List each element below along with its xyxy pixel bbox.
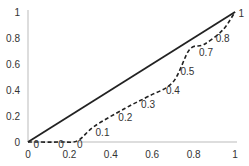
point-label: 0 bbox=[33, 139, 39, 150]
x-tick-label: 1 bbox=[232, 149, 238, 160]
y-tick-label: 0.2 bbox=[6, 111, 20, 122]
point-label: 0.3 bbox=[141, 99, 155, 110]
point-label: 0 bbox=[58, 139, 64, 150]
x-tick-label: 0.8 bbox=[187, 149, 201, 160]
x-tick-label: 0.6 bbox=[145, 149, 159, 160]
x-tick-label: 0.2 bbox=[62, 149, 76, 160]
point-label: 1 bbox=[238, 8, 244, 19]
x-tick-label: 0.4 bbox=[104, 149, 118, 160]
point-label: 0 bbox=[77, 139, 83, 150]
y-tick-label: 0.8 bbox=[6, 33, 20, 44]
point-label: 0.4 bbox=[166, 85, 180, 96]
y-tick-labels: 00.20.40.60.81 bbox=[6, 7, 20, 148]
x-tick-label: 0 bbox=[25, 149, 31, 160]
point-label: 0.5 bbox=[180, 66, 194, 77]
y-tick-label: 0 bbox=[14, 137, 20, 148]
point-labels: 0000.10.20.30.40.50.70.81 bbox=[33, 8, 244, 150]
point-label: 0.2 bbox=[118, 112, 132, 123]
y-tick-label: 0.6 bbox=[6, 59, 20, 70]
point-label: 0.8 bbox=[216, 33, 230, 44]
point-label: 0.7 bbox=[199, 47, 213, 58]
y-tick-label: 1 bbox=[14, 7, 20, 18]
chart: 00.20.40.60.81 00.20.40.60.81 0000.10.20… bbox=[0, 0, 249, 166]
point-label: 0.1 bbox=[96, 127, 110, 138]
y-tick-label: 0.4 bbox=[6, 85, 20, 96]
x-tick-labels: 00.20.40.60.81 bbox=[25, 149, 238, 160]
